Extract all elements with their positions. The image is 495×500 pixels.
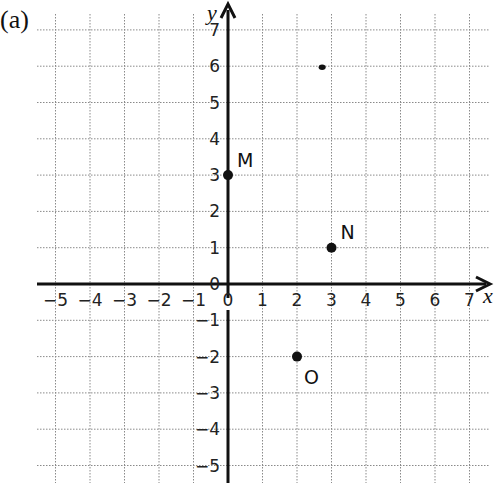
y-tick-labels: −5−4−3−2−101234567 xyxy=(195,20,220,476)
y-tick-label: −3 xyxy=(195,383,220,403)
x-tick-label: 4 xyxy=(361,290,372,310)
y-tick-label: −4 xyxy=(195,419,220,439)
y-tick-label: 4 xyxy=(209,129,220,149)
y-tick-label: −5 xyxy=(195,456,220,476)
y-tick-label: −2 xyxy=(195,347,220,367)
point-marker xyxy=(292,352,302,362)
smudge-mark xyxy=(319,64,326,70)
x-tick-label: −2 xyxy=(146,290,171,310)
point-label: O xyxy=(304,366,319,388)
x-tick-label: 2 xyxy=(292,290,303,310)
x-tick-label: −3 xyxy=(112,290,137,310)
axes xyxy=(37,4,490,483)
y-tick-label: 6 xyxy=(209,56,220,76)
y-tick-label: −1 xyxy=(195,310,220,330)
y-tick-label: 1 xyxy=(209,238,220,258)
x-tick-label: 7 xyxy=(464,290,475,310)
plotted-points: MNO xyxy=(223,149,355,388)
point-marker xyxy=(327,243,337,253)
x-tick-label: −1 xyxy=(181,290,206,310)
y-tick-label: 2 xyxy=(209,201,220,221)
x-tick-label: 1 xyxy=(257,290,268,310)
x-tick-labels: −5−4−3−2−101234567 xyxy=(43,290,475,310)
x-tick-label: −5 xyxy=(43,290,68,310)
y-axis-label: y xyxy=(205,0,217,25)
x-tick-label: −4 xyxy=(77,290,102,310)
x-tick-label: 0 xyxy=(223,290,234,310)
coordinate-grid-figure: (a) −5−4−3−2−101234567 −5−4−3−2−10123456… xyxy=(0,0,495,500)
panel-label: (a) xyxy=(0,5,29,34)
x-tick-label: 3 xyxy=(326,290,337,310)
grid-lines xyxy=(37,14,490,483)
x-tick-label: 6 xyxy=(430,290,441,310)
y-tick-label: 5 xyxy=(209,93,220,113)
x-axis-label: x xyxy=(482,283,493,308)
y-tick-label: 3 xyxy=(209,165,220,185)
y-tick-label: 0 xyxy=(209,274,220,294)
annotations xyxy=(319,64,326,70)
point-marker xyxy=(223,170,233,180)
x-tick-label: 5 xyxy=(395,290,406,310)
point-label: M xyxy=(237,149,253,171)
point-label: N xyxy=(341,221,355,243)
